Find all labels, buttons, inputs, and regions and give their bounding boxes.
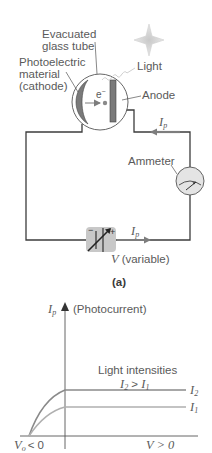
voltage-label: V(variable) [111,252,170,266]
light-label: Light [137,60,163,72]
electron [103,101,107,105]
svg-text:−: − [88,225,93,235]
light-source-icon [134,24,164,56]
svg-text:+: + [110,227,115,237]
ammeter-label: Ammeter [128,155,175,167]
tube-label-2: glass tube [42,40,94,52]
y-axis-desc: (Photocurrent) [73,303,147,315]
cathode-label-3: (cathode) [19,80,68,92]
x-label-right: V > 0 [146,438,175,452]
curve-I1 [29,407,186,436]
y-axis-label: Ip [47,302,56,317]
legend-I2: I2 [189,383,198,398]
light-wave-icon [102,68,135,80]
current-label-bottom: Ip [130,224,139,239]
part-label: (a) [112,276,126,288]
ammeter-icon [176,167,204,195]
legend-I1: I1 [189,400,198,415]
photoelectric-figure: e− Evacuated glass tube Photoelectric ma… [0,0,212,453]
annotation-line1: Light intensities [98,364,178,376]
anode-label: Anode [142,89,175,101]
y-axis-arrow-icon [61,302,69,311]
cathode-label-2: material [19,68,60,80]
photocurrent-graph: Ip (Photocurrent) Light intensities I2 >… [14,302,198,453]
annotation-line2: I2 > I1 [119,377,149,392]
tube-label-1: Evacuated [42,28,96,40]
x-label-left: Vo< 0 [14,438,44,453]
anode [110,80,116,122]
variable-battery-icon: − + [86,225,116,252]
cathode-label-1: Photoelectric [19,56,86,68]
current-label-top: Ip [158,115,167,130]
